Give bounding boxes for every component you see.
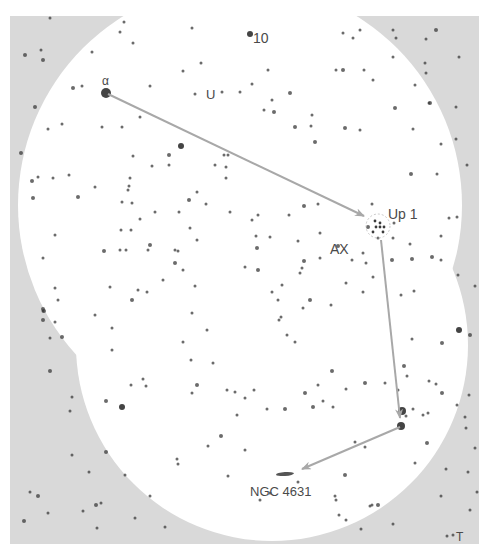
star [476,491,479,494]
star [91,51,94,54]
star [440,495,443,498]
star [425,72,428,75]
star [297,240,300,243]
star [319,257,322,260]
star [335,499,338,502]
star [410,257,414,261]
star [474,285,477,288]
star [465,427,468,430]
star [148,243,152,247]
star [130,298,134,302]
star [448,217,451,220]
star [146,291,149,294]
star [405,415,408,418]
star [149,495,152,498]
star [338,514,341,517]
star [219,434,223,438]
star [345,519,348,522]
star [422,414,425,417]
star [456,216,459,219]
star [390,258,394,262]
star [277,299,280,302]
star [132,42,135,45]
star [468,394,471,397]
star [267,69,270,72]
star [162,279,165,282]
star [467,471,470,474]
star [302,307,305,310]
star [229,211,232,214]
star [119,249,122,252]
star [37,176,40,179]
star [440,259,443,262]
star [424,62,427,65]
star [194,285,197,288]
star [130,229,133,232]
star [52,177,55,180]
star [207,445,210,448]
star [430,255,434,259]
star [266,408,269,411]
star [317,384,320,387]
star [263,109,266,112]
star [411,338,414,341]
star [196,191,199,194]
star [283,407,287,411]
star [412,408,415,411]
star [428,102,431,105]
star [293,125,297,129]
star [288,91,292,95]
star [206,329,209,332]
label-t: T [456,530,464,544]
cluster-star [372,231,375,234]
star [342,32,345,35]
star [425,38,428,41]
star [445,468,448,471]
star-chart: α10UUp 1AXNGC 4631T [0,0,486,544]
star [31,196,35,200]
star [435,383,438,386]
star [68,174,71,177]
star [406,375,409,378]
star [413,290,416,293]
star [354,441,357,444]
star [76,195,80,199]
star [414,462,417,465]
star [257,214,260,217]
star [177,463,180,466]
star [33,105,37,109]
star [371,504,374,507]
star [372,276,375,279]
star [303,391,307,395]
star [71,396,74,399]
star [255,235,258,238]
star [436,173,439,176]
star [253,389,256,392]
star [269,236,272,239]
star [371,203,374,206]
star [317,203,320,206]
star [440,341,444,345]
star [36,494,40,498]
star [151,165,154,168]
star [345,388,348,391]
star [400,294,403,297]
star [299,272,302,275]
star [147,249,150,252]
star [48,369,52,373]
star [372,79,375,82]
star [313,140,317,144]
star [94,503,98,507]
star [446,535,449,538]
star [310,125,313,128]
star [409,243,412,246]
star [47,128,50,131]
star [376,503,380,507]
star [123,21,126,24]
star [131,202,134,205]
star [359,29,362,32]
star [178,211,181,214]
star [225,177,228,180]
star [189,227,192,230]
star [223,154,226,157]
